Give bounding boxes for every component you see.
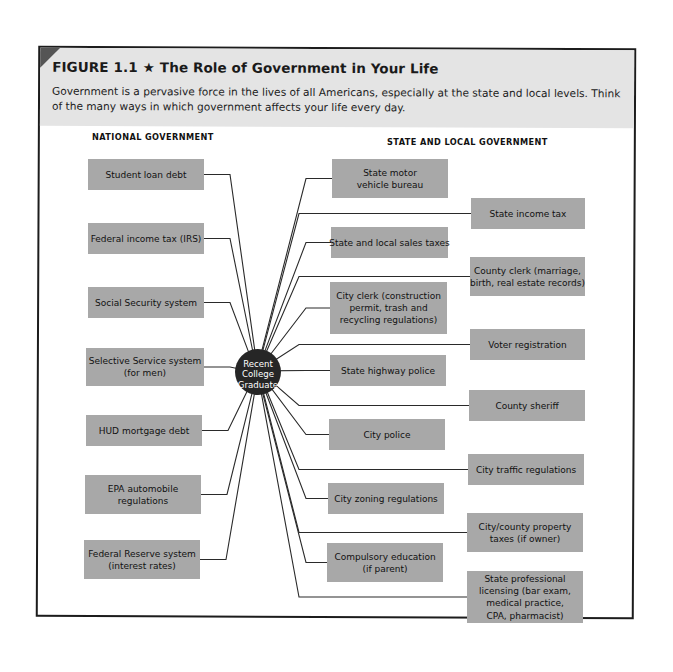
item-label: EPA automobile xyxy=(108,484,179,494)
item-label: (for men) xyxy=(124,368,166,378)
box-county-clerk-marriage-birth-real-estate-records: County clerk (marriage,birth, real estat… xyxy=(470,257,585,296)
item-label: State and local sales taxes xyxy=(329,238,450,248)
box-selective-service-system-for-men: Selective Service system(for men) xyxy=(86,348,204,386)
item-label: State motor xyxy=(363,168,417,178)
item-label: County clerk (marriage, xyxy=(474,266,581,276)
hub-label: Recent xyxy=(243,359,273,369)
item-label: birth, real estate records) xyxy=(470,278,585,288)
item-label: medical practice, xyxy=(486,598,564,608)
item-label: State income tax xyxy=(490,209,568,219)
state-local-government-heading: STATE AND LOCAL GOVERNMENT xyxy=(387,137,548,147)
recent-college-graduate-hub: RecentCollegeGraduate xyxy=(235,349,281,395)
item-box xyxy=(84,540,200,579)
box-social-security-system: Social Security system xyxy=(88,287,204,318)
item-box xyxy=(470,257,585,296)
box-city-traffic-regulations: City traffic regulations xyxy=(468,454,584,485)
box-federal-income-tax-irs: Federal income tax (IRS) xyxy=(88,223,204,254)
item-label: Social Security system xyxy=(95,298,197,308)
box-student-loan-debt: Student loan debt xyxy=(88,159,204,190)
state-local-government-items: State motorvehicle bureauState income ta… xyxy=(327,159,585,623)
box-state-and-local-sales-taxes: State and local sales taxes xyxy=(329,227,450,258)
connector-line xyxy=(261,380,328,499)
item-box xyxy=(85,475,201,514)
item-label: permit, trash and xyxy=(349,303,427,313)
box-city-police: City police xyxy=(329,419,445,450)
hub-label: Graduate xyxy=(238,380,278,390)
connector-line xyxy=(204,175,256,362)
national-government-items: Student loan debtFederal income tax (IRS… xyxy=(84,159,204,579)
connector-line xyxy=(260,384,327,562)
item-label: State highway police xyxy=(341,366,436,376)
box-hud-mortgage-debt: HUD mortgage debt xyxy=(86,415,202,446)
item-label: Federal income tax (IRS) xyxy=(91,234,202,244)
item-label: Voter registration xyxy=(488,340,567,350)
item-box xyxy=(327,543,443,582)
item-label: (interest rates) xyxy=(108,561,175,571)
national-government-heading: NATIONAL GOVERNMENT xyxy=(92,132,214,142)
box-city-zoning-regulations: City zoning regulations xyxy=(328,483,444,514)
box-county-sheriff: County sheriff xyxy=(469,390,585,421)
box-state-highway-police: State highway police xyxy=(330,355,446,386)
item-label: County sheriff xyxy=(495,401,559,411)
item-label: Student loan debt xyxy=(106,170,187,180)
box-city-clerk-construction-permit-trash-and-recycling-regulations: City clerk (constructionpermit, trash an… xyxy=(330,282,447,334)
item-label: vehicle bureau xyxy=(357,180,424,190)
box-voter-registration: Voter registration xyxy=(470,329,585,360)
box-compulsory-education-if-parent: Compulsory education(if parent) xyxy=(327,543,443,582)
box-state-professional-licensing-bar-exam-medical-practice-cpa-pharmacist: State professionallicensing (bar exam,me… xyxy=(467,571,583,623)
section-headings: NATIONAL GOVERNMENT STATE AND LOCAL GOVE… xyxy=(92,132,548,147)
hub-label: College xyxy=(242,369,274,379)
item-box xyxy=(467,513,583,552)
item-label: Federal Reserve system xyxy=(88,549,196,559)
item-label: CPA, pharmacist) xyxy=(487,611,564,621)
item-box xyxy=(86,348,204,386)
item-label: City police xyxy=(363,430,411,440)
item-label: regulations xyxy=(118,496,169,506)
box-state-income-tax: State income tax xyxy=(471,198,585,229)
item-label: (if parent) xyxy=(362,564,407,574)
item-label: Compulsory education xyxy=(334,552,435,562)
government-diagram: NATIONAL GOVERNMENT STATE AND LOCAL GOVE… xyxy=(0,0,673,672)
item-label: City traffic regulations xyxy=(476,465,576,475)
item-label: HUD mortgage debt xyxy=(99,426,190,436)
item-label: taxes (if owner) xyxy=(490,534,561,544)
box-state-motor-vehicle-bureau: State motorvehicle bureau xyxy=(332,159,448,198)
box-city-county-property-taxes-if-owner: City/county propertytaxes (if owner) xyxy=(467,513,583,552)
item-label: City/county property xyxy=(479,522,572,532)
item-label: City zoning regulations xyxy=(334,494,438,504)
box-federal-reserve-system-interest-rates: Federal Reserve system(interest rates) xyxy=(84,540,200,579)
item-label: State professional xyxy=(484,574,565,584)
item-label: Selective Service system xyxy=(89,356,202,366)
box-epa-automobile-regulations: EPA automobileregulations xyxy=(85,475,201,514)
item-box xyxy=(332,159,448,198)
item-label: City clerk (construction xyxy=(336,291,441,301)
item-label: recycling regulations) xyxy=(340,315,437,325)
item-label: licensing (bar exam, xyxy=(479,586,571,596)
